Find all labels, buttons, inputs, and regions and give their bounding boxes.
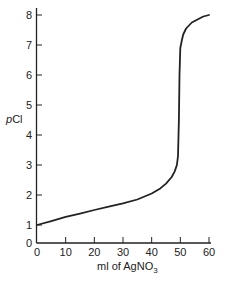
y-tick-label: 3 bbox=[26, 159, 32, 171]
y-tick-label: 1 bbox=[26, 219, 32, 231]
y-tick-label: 4 bbox=[26, 129, 32, 141]
titration-chart: 012345678 0102030405060 pCl ml of AgNO3 bbox=[0, 0, 235, 286]
y-tick-label: 7 bbox=[26, 39, 32, 51]
x-axis-label: ml of AgNO3 bbox=[97, 260, 158, 275]
y-ticks: 012345678 bbox=[26, 9, 42, 249]
x-tick-label: 30 bbox=[117, 246, 129, 258]
y-axis-label: pCl bbox=[5, 113, 23, 125]
y-tick-label: 6 bbox=[26, 69, 32, 81]
x-tick-label: 60 bbox=[203, 246, 215, 258]
x-ticks: 0102030405060 bbox=[34, 237, 215, 258]
y-tick-label: 0 bbox=[26, 237, 32, 249]
x-tick-label: 50 bbox=[174, 246, 186, 258]
x-tick-label: 0 bbox=[34, 246, 40, 258]
titration-curve bbox=[37, 15, 209, 225]
y-tick-label: 5 bbox=[26, 99, 32, 111]
x-tick-label: 10 bbox=[60, 246, 72, 258]
x-tick-label: 40 bbox=[146, 246, 158, 258]
y-tick-label: 2 bbox=[26, 189, 32, 201]
x-tick-label: 20 bbox=[88, 246, 100, 258]
y-tick-label: 8 bbox=[26, 9, 32, 21]
axes bbox=[37, 8, 212, 243]
